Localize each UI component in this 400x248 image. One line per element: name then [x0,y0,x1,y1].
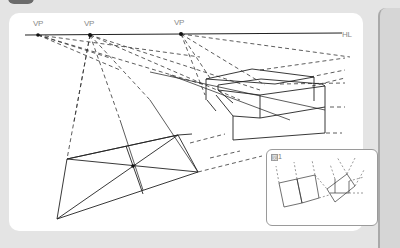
vanishing-point-dots [36,32,183,168]
inset-drawing [267,150,377,225]
vp-label-1: VP [33,19,43,28]
quadrilateral-grid [57,134,198,219]
vp-label-3: VP [174,18,184,27]
vp-label-2: VP [84,19,94,28]
horizon-line-label: HL [342,30,352,39]
figure-1-inset: 図1 [266,149,378,226]
construction-lines-vp1 [38,35,205,85]
box-solid [206,69,325,140]
